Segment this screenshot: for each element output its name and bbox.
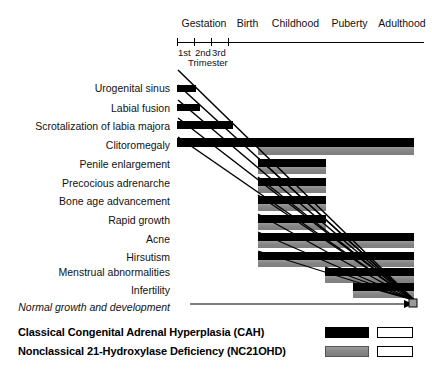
bar-nc-row-9 — [258, 260, 414, 267]
bar-cah-row-9 — [258, 252, 414, 260]
row-label-2: Scrotalization of labia majora — [0, 120, 170, 132]
legend-swatch-filled-cah — [325, 327, 369, 338]
bar-cah-row-8 — [258, 233, 414, 241]
row-label-11: Infertility — [0, 284, 170, 296]
bar-nc-row-11 — [353, 291, 414, 298]
row-label-3: Clitoromegaly — [0, 139, 170, 151]
period-label-childhood: Childhood — [266, 17, 325, 29]
row-label-9: Hirsutism — [0, 251, 170, 263]
axis-tick-3 — [228, 38, 229, 46]
row-label-6: Bone age advancement — [0, 195, 170, 207]
row-label-7: Rapid growth — [0, 214, 170, 226]
row-label-1: Labial fusion — [0, 102, 170, 114]
bar-cah-row-11 — [353, 283, 414, 291]
period-label-birth: Birth — [231, 17, 264, 29]
axis-tick-1 — [194, 38, 195, 46]
period-label-gestation: Gestation — [178, 17, 230, 29]
bar-nc-row-8 — [258, 241, 414, 248]
row-label-4: Penile enlargement — [0, 158, 170, 170]
legend-label-nc: Nonclassical 21-Hydroxylase Deficiency (… — [18, 345, 286, 358]
bar-nc-row-4 — [258, 167, 326, 174]
row-label-8: Acne — [0, 233, 170, 245]
row-label-0: Urogenital sinus — [0, 82, 170, 94]
bar-cah-row-3 — [177, 138, 414, 147]
timeline-axis-line — [177, 42, 424, 43]
row-label-12: Normal growth and development — [0, 301, 170, 313]
legend-swatch-open-nc — [377, 346, 413, 357]
bar-cah-row-0 — [177, 85, 196, 92]
bar-nc-row-5 — [258, 186, 326, 193]
bar-cah-row-6 — [258, 196, 326, 204]
row-label-10: Menstrual abnormalities — [0, 266, 170, 278]
legend-label-cah: Classical Congenital Adrenal Hyperplasia… — [18, 326, 264, 339]
legend-swatch-open-cah — [377, 327, 413, 338]
bar-nc-row-6 — [258, 204, 326, 211]
bar-cah-row-7 — [258, 215, 326, 223]
bar-cah-row-1 — [177, 104, 200, 111]
normal-growth-arrow — [190, 300, 413, 308]
bar-nc-row-7 — [258, 223, 326, 230]
legend-swatch-filled-nc — [325, 346, 369, 357]
bar-cah-row-10 — [325, 268, 414, 276]
bar-cah-row-2 — [177, 121, 233, 129]
convergence-marker — [409, 299, 417, 307]
bar-nc-row-10 — [325, 276, 414, 283]
bar-nc-row-3 — [258, 147, 414, 155]
row-label-5: Precocious adrenarche — [0, 177, 170, 189]
period-label-puberty: Puberty — [327, 17, 372, 29]
axis-tick-2 — [211, 38, 212, 46]
bar-cah-row-4 — [258, 159, 326, 167]
period-label-adulthood: Adulthood — [374, 17, 430, 29]
chart-root: GestationBirthChildhoodPubertyAdulthood … — [0, 0, 432, 373]
bar-cah-row-5 — [258, 178, 326, 186]
trimester-group-label: Trimester — [188, 57, 228, 68]
axis-tick-0 — [177, 38, 178, 46]
